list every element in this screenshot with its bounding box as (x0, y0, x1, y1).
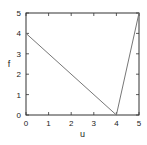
y-tick-label: 2 (17, 70, 22, 79)
y-tick-label: 0 (17, 111, 22, 120)
x-tick-label: 1 (46, 119, 51, 128)
x-tick-label: 5 (137, 119, 142, 128)
x-tick-label: 2 (69, 119, 74, 128)
y-tick-label: 5 (17, 9, 22, 18)
y-tick-label: 4 (17, 29, 22, 38)
chart: 012345012345uf (0, 0, 147, 145)
series-line (26, 13, 139, 115)
y-tick-label: 3 (17, 50, 22, 59)
plot-area: 012345012345uf (8, 9, 142, 139)
plot-frame (26, 13, 139, 115)
y-tick-label: 1 (17, 91, 22, 100)
y-axis-label: f (8, 59, 11, 69)
x-tick-label: 0 (24, 119, 29, 128)
x-tick-label: 3 (92, 119, 97, 128)
x-tick-label: 4 (114, 119, 119, 128)
x-axis-label: u (80, 129, 85, 139)
